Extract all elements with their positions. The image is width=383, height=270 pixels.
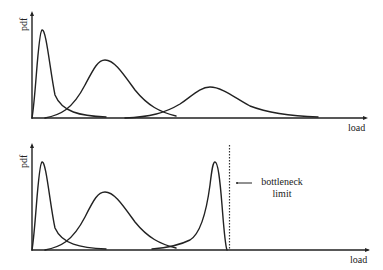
bottom-x-axis-label: load <box>350 255 367 265</box>
bottom-curve-limit <box>152 162 227 250</box>
top-curve-narrow <box>32 30 106 118</box>
diagram: pdf load pdf load bottleneck limit <box>0 0 383 270</box>
bottleneck-annotation: bottleneck limit <box>254 177 310 199</box>
bottom-y-axis-label: pdf <box>19 155 29 168</box>
top-curve-medium <box>45 60 176 118</box>
top-y-arrow-icon <box>30 11 34 16</box>
bottom-curve-medium <box>45 192 176 250</box>
annotation-line-2: limit <box>254 189 310 199</box>
bottom-x-arrow-icon <box>365 248 370 252</box>
diagram-graphics <box>0 0 383 270</box>
annotation-line-1: bottleneck <box>254 177 310 187</box>
bottom-y-arrow-icon <box>30 143 34 148</box>
top-curve-wide <box>125 87 318 118</box>
top-x-axis-label: load <box>348 123 365 133</box>
bottom-curve-narrow <box>32 162 106 250</box>
top-x-arrow-icon <box>363 116 368 120</box>
top-y-axis-label: pdf <box>19 18 29 31</box>
